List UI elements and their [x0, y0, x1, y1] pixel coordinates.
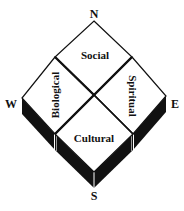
compass-north-label: N — [90, 7, 99, 21]
quadrant-label-spiritual: Spiritual — [127, 75, 139, 117]
quadrant-label-social: Social — [81, 49, 109, 61]
quadrant-diamond-diagram: N W E S Social Biological Spiritual Cult… — [0, 0, 184, 211]
quadrant-label-cultural: Cultural — [74, 132, 114, 144]
compass-east-label: E — [171, 97, 179, 111]
quadrant-label-biological: Biological — [49, 72, 61, 118]
compass-south-label: S — [91, 189, 98, 203]
compass-west-label: W — [5, 97, 17, 111]
